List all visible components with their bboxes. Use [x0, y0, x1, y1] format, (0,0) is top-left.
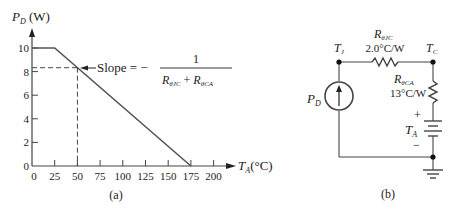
- y-axis-label: PD (W): [11, 9, 50, 26]
- caption-a: (a): [109, 188, 122, 202]
- battery-minus: −: [413, 138, 420, 152]
- ground-icon: [423, 170, 443, 178]
- slope-numerator: 1: [193, 52, 199, 66]
- svg-text:10: 10: [18, 42, 30, 54]
- svg-text:8: 8: [24, 66, 30, 78]
- battery-icon: [424, 121, 442, 136]
- battery-plus: +: [414, 108, 421, 122]
- resistor-rjc-icon: [372, 58, 398, 66]
- svg-text:6: 6: [24, 89, 30, 101]
- svg-text:200: 200: [205, 170, 222, 182]
- x-tick-labels: 0 25 50 75 100 125 150 175 200: [31, 170, 222, 182]
- svg-text:0: 0: [31, 170, 37, 182]
- svg-text:4: 4: [24, 113, 30, 125]
- figure-canvas: PD (W) 10 8 6 4 2 0 0 25 50 75 100 125 1…: [0, 0, 453, 212]
- r-ca-label: RθCA: [393, 72, 414, 87]
- node-tc: [430, 59, 435, 64]
- r-jc-label: RθJC: [373, 27, 393, 42]
- x-axis-label: TA(°C): [238, 158, 273, 175]
- svg-text:50: 50: [72, 170, 84, 182]
- slope-label: Slope = −: [97, 60, 148, 75]
- x-axis-arrow-icon: [226, 163, 236, 169]
- r-ca-value: 13°C/W: [390, 87, 427, 99]
- slope-arrow-icon: [80, 66, 88, 71]
- node-tc-label: TC: [426, 41, 438, 56]
- svg-text:125: 125: [137, 170, 154, 182]
- y-axis-arrow-icon: [29, 28, 35, 37]
- resistor-rca-icon: [429, 81, 437, 103]
- derating-chart: [29, 28, 236, 169]
- r-jc-value: 2.0°C/W: [366, 42, 406, 54]
- thermal-circuit: [325, 58, 443, 178]
- svg-text:0: 0: [24, 160, 30, 172]
- svg-text:150: 150: [160, 170, 177, 182]
- node-ground: [430, 154, 435, 159]
- node-tj-label: TJ: [334, 41, 345, 56]
- svg-text:75: 75: [95, 170, 107, 182]
- svg-text:100: 100: [115, 170, 132, 182]
- y-ticks: [32, 48, 38, 142]
- svg-text:175: 175: [183, 170, 200, 182]
- source-label: PD: [306, 91, 321, 108]
- y-tick-labels: 10 8 6 4 2 0: [18, 42, 30, 172]
- caption-b: (b): [381, 187, 395, 201]
- node-tj: [336, 59, 341, 64]
- slope-denominator: RθJC + RθCA: [161, 73, 214, 88]
- svg-text:25: 25: [49, 170, 61, 182]
- svg-text:2: 2: [24, 136, 30, 148]
- current-arrow-icon: [336, 85, 342, 92]
- battery-label: TA: [405, 122, 417, 139]
